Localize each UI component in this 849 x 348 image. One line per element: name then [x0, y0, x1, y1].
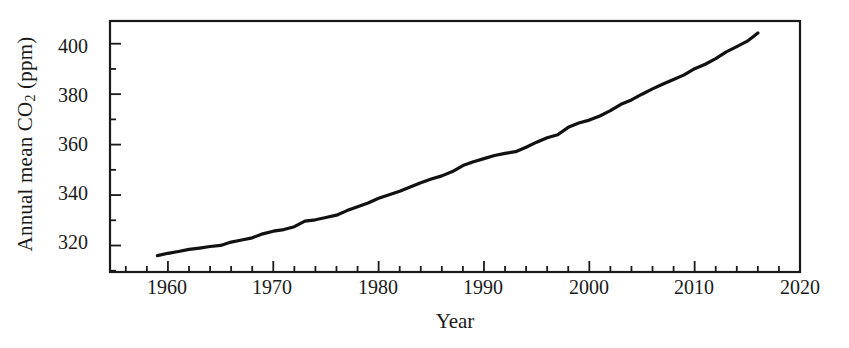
plot-area-svg: [0, 0, 849, 348]
co2-data-line: [157, 33, 757, 256]
plot-frame: [110, 21, 800, 272]
data-series-group: [157, 33, 757, 256]
x-axis-ticks: [126, 261, 800, 272]
co2-line-chart-figure: Annual mean CO2 (ppm) Year 400 380 360 3…: [0, 0, 849, 348]
y-axis-ticks: [110, 44, 121, 271]
